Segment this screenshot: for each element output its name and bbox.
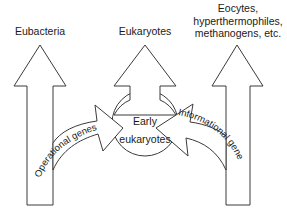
eocytes-label-line2: hyperthermophiles,	[193, 15, 283, 28]
eubacteria-label: Eubacteria	[8, 25, 72, 38]
early-label-line2: eukaryotes	[118, 130, 172, 148]
eukaryotes-label: Eukaryotes	[108, 25, 182, 38]
early-label-line1: Early	[118, 112, 172, 130]
eocytes-label: Eocytes, hyperthermophiles, methanogens,…	[193, 2, 283, 40]
eocytes-label-line1: Eocytes,	[193, 2, 283, 15]
early-eukaryotes-label: Early eukaryotes	[118, 112, 172, 148]
eocytes-label-line3: methanogens, etc.	[193, 27, 283, 40]
eubacteria-arrow	[14, 45, 66, 205]
